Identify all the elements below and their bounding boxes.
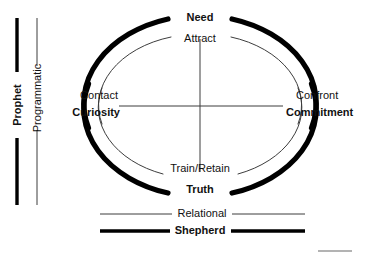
node-left-outer-curiosity: Curiosity bbox=[72, 107, 120, 118]
axis-label-prophet: Prophet bbox=[12, 84, 23, 126]
node-left-inner-contact: Contact bbox=[80, 90, 118, 101]
node-bottom-inner-train-retain: Train/Retain bbox=[170, 163, 230, 174]
legend-label-shepherd: Shepherd bbox=[175, 225, 226, 236]
diagram-canvas: Prophet Programmatic Need Attract Confro… bbox=[0, 0, 369, 262]
node-top-outer-need: Need bbox=[187, 12, 214, 23]
node-right-inner-confront: Confront bbox=[296, 90, 338, 101]
node-right-outer-commitment: Commitment bbox=[286, 107, 353, 118]
node-top-inner-attract: Attract bbox=[184, 33, 216, 44]
axis-label-programmatic: Programmatic bbox=[32, 64, 43, 132]
legend-label-relational: Relational bbox=[178, 208, 227, 219]
center-cross bbox=[119, 39, 283, 172]
node-bottom-outer-truth: Truth bbox=[186, 184, 214, 195]
